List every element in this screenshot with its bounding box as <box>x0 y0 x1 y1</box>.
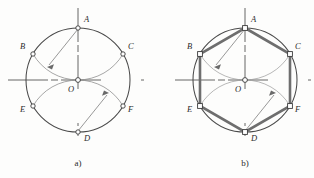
panel-a-point-C-marker <box>121 52 125 56</box>
panel-a-caption: a) <box>75 158 82 168</box>
panel-a-point-F-marker <box>121 104 125 108</box>
figure-canvas: A B C E F D O a) <box>0 0 314 178</box>
panel-b-label-D: D <box>250 133 258 143</box>
panel-a-point-D-marker <box>76 130 80 134</box>
panel-a-label-E: E <box>19 104 26 114</box>
panel-b-label-B: B <box>187 41 192 51</box>
panel-b-point-D-marker <box>243 130 248 135</box>
panel-b-label-A: A <box>250 14 257 24</box>
panel-a-point-O-marker <box>76 78 81 83</box>
panel-a-point-A-marker <box>76 26 80 30</box>
panel-b-point-C-marker <box>288 52 293 57</box>
panel-b-label-O: O <box>235 84 241 94</box>
panel-b-label-F: F <box>294 104 301 114</box>
panel-b-caption: b) <box>241 158 249 168</box>
hexagon-construction-figure: A B C E F D O a) <box>0 0 314 178</box>
panel-b-point-O-marker <box>243 78 248 83</box>
panel-a-label-B: B <box>20 41 25 51</box>
panel-a-label-O: O <box>68 84 74 94</box>
panel-b-point-E-marker <box>198 104 203 109</box>
panel-a: A B C E F D O a) <box>8 8 148 168</box>
panel-b: A B C E F D O b) <box>175 8 314 168</box>
panel-a-point-B-marker <box>31 52 35 56</box>
panel-a-label-F: F <box>127 104 134 114</box>
panel-b-label-C: C <box>295 41 301 51</box>
panel-b-label-E: E <box>186 104 193 114</box>
panel-a-point-E-marker <box>31 104 35 108</box>
panel-b-point-A-marker <box>243 26 248 31</box>
panel-a-label-C: C <box>128 41 134 51</box>
panel-a-label-D: D <box>83 133 91 143</box>
panel-a-label-A: A <box>83 14 90 24</box>
panel-b-point-B-marker <box>198 52 203 57</box>
panel-b-point-F-marker <box>288 104 293 109</box>
